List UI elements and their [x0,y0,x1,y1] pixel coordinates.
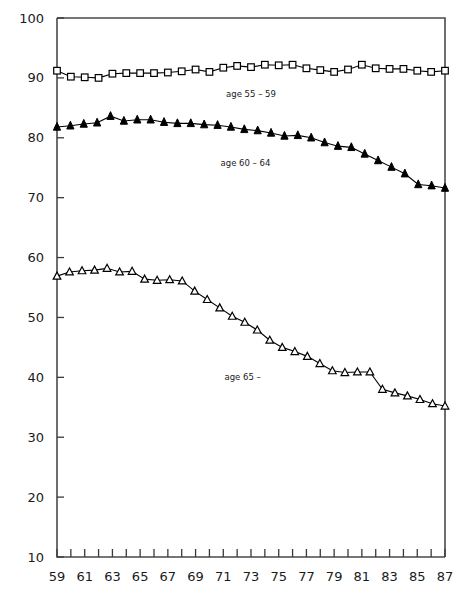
y-tick-label: 90 [27,70,44,85]
x-tick-label: 85 [409,569,426,584]
data-point-triangle [253,326,261,333]
series-label-2: age 60 – 64 [221,158,271,168]
data-point-triangle [128,267,136,274]
y-axis-ticks [57,18,64,557]
x-tick-label: 69 [187,569,204,584]
data-point-triangle [166,276,174,283]
data-point-square [442,67,449,74]
data-point-square [206,69,213,76]
data-point-square [248,64,255,71]
data-point-square [331,69,338,76]
data-point-square [400,66,407,73]
y-tick-label: 70 [27,190,44,205]
x-tick-label: 67 [160,569,177,584]
x-tick-label: 83 [381,569,398,584]
series-label-3: age 65 – [225,372,261,382]
y-tick-label: 20 [27,490,44,505]
data-point-square [137,70,144,77]
x-tick-label: 61 [76,569,93,584]
data-point-triangle [203,295,211,302]
data-point-triangle [103,264,111,271]
data-point-square [386,66,393,73]
data-point-square [54,67,61,74]
x-tick-label: 81 [354,569,371,584]
data-point-square [109,70,116,77]
data-point-square [262,61,269,68]
data-point-triangle-solid [294,131,301,139]
x-tick-label: 87 [437,569,454,584]
y-tick-label: 60 [27,250,44,265]
data-point-square [95,75,102,82]
y-tick-label: 40 [27,370,44,385]
data-point-triangle-solid [107,112,114,120]
data-point-triangle-solid [214,121,221,129]
y-tick-label: 100 [19,11,44,26]
data-point-square [414,67,421,74]
data-point-triangle [316,360,324,367]
x-tick-label: 75 [270,569,287,584]
data-point-square [359,61,366,68]
series-line [57,268,445,406]
data-point-triangle-solid [187,119,194,127]
x-tick-label: 77 [298,569,315,584]
x-tick-label: 71 [215,569,232,584]
data-point-square [165,69,172,76]
y-tick-label: 10 [27,550,44,565]
data-point-triangle [191,287,199,294]
data-point-triangle [241,318,249,325]
data-point-triangle-solid [415,180,422,188]
data-point-square [289,61,296,68]
data-point-square [372,65,379,72]
data-point-triangle-solid [134,115,141,123]
series-1 [54,61,449,81]
data-point-triangle [266,336,274,343]
data-point-square [428,69,435,76]
data-point-square [81,74,88,81]
data-point-square [178,68,185,75]
x-tick-label: 65 [132,569,149,584]
x-axis-ticks [57,549,445,557]
data-point-triangle [278,343,286,350]
x-axis-tick-labels: 596163656769717375777981838587 [49,569,454,584]
series-2 [53,112,448,192]
x-tick-label: 59 [49,569,66,584]
data-point-square [275,62,282,69]
y-axis-tick-labels: 102030405060708090100 [19,11,44,565]
x-tick-label: 73 [243,569,260,584]
data-point-square [123,70,130,77]
x-tick-label: 63 [104,569,121,584]
series-line [57,116,445,188]
data-point-triangle [228,312,236,319]
x-tick-label: 79 [326,569,343,584]
data-point-triangle [141,275,149,282]
data-point-square [68,73,75,80]
y-tick-label: 80 [27,130,44,145]
data-point-square [220,64,227,71]
y-tick-label: 30 [27,430,44,445]
data-point-square [345,66,352,73]
data-series-layer [53,61,449,409]
data-point-square [317,67,324,74]
data-point-triangle-solid [147,115,154,123]
data-point-square [303,65,310,72]
data-point-triangle [329,367,337,374]
data-point-square [192,66,199,73]
chart-container: 102030405060708090100 596163656769717375… [0,0,461,606]
data-point-square [234,63,241,70]
y-tick-label: 50 [27,310,44,325]
line-chart: 102030405060708090100 596163656769717375… [0,0,461,606]
series-3 [53,264,449,409]
data-point-triangle [216,304,224,311]
series-label-1: age 55 – 59 [226,89,276,99]
data-point-square [151,70,158,77]
